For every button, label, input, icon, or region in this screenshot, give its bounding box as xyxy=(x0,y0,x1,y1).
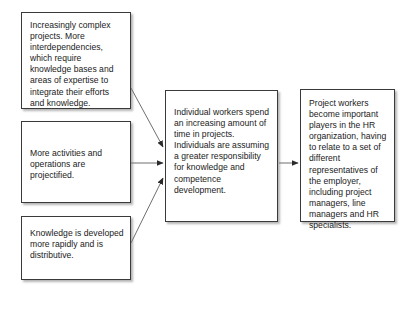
node-activities: More activities and operations are proje… xyxy=(21,121,131,203)
node-project-workers: Project workers become important players… xyxy=(300,89,395,222)
edge-complex-to-individual xyxy=(131,88,163,147)
node-project-workers-text: Project workers become important players… xyxy=(309,98,388,231)
edge-knowledge-to-individual xyxy=(131,178,163,243)
diagram-canvas: Increasingly complex projects. More inte… xyxy=(0,0,416,318)
node-individual-workers-text: Individual workers spend an increasing a… xyxy=(174,107,271,196)
node-knowledge: Knowledge is developed more rapidly and … xyxy=(21,216,131,280)
node-complex-projects-text: Increasingly complex projects. More inte… xyxy=(30,20,124,109)
node-knowledge-text: Knowledge is developed more rapidly and … xyxy=(30,228,124,261)
node-individual-workers: Individual workers spend an increasing a… xyxy=(165,90,278,222)
node-activities-text: More activities and operations are proje… xyxy=(30,148,124,181)
node-complex-projects: Increasingly complex projects. More inte… xyxy=(21,12,131,109)
